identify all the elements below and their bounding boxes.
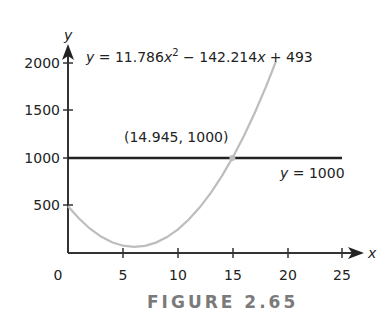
y-tick-label-1000: 1000 (24, 150, 60, 166)
y-tick-label-1500: 1500 (24, 102, 60, 118)
y-axis-label: y (63, 27, 73, 43)
x-tick-label-5: 5 (119, 267, 128, 283)
line-equation-label: y = 1000 (279, 165, 345, 181)
x-tick-label-15: 15 (224, 267, 242, 283)
y-tick-label-2000: 2000 (24, 55, 60, 71)
x-tick-label-10: 10 (169, 267, 187, 283)
axes: 0 5 10 15 20 25 500 1000 1500 2000 x y (24, 27, 377, 283)
intersection-point (229, 155, 235, 161)
x-tick-label-25: 25 (333, 267, 351, 283)
parabola-curve (68, 62, 276, 247)
x-axis-label: x (367, 245, 377, 261)
chart: 0 5 10 15 20 25 500 1000 1500 2000 x y y… (0, 0, 392, 332)
intersection-label: (14.945, 1000) (124, 129, 228, 145)
parabola-equation-label: y = 11.786x2 − 142.214x + 493 (85, 47, 313, 65)
x-tick-label-20: 20 (279, 267, 297, 283)
y-tick-label-500: 500 (33, 197, 60, 213)
x-tick-label-0: 0 (54, 267, 63, 283)
figure-caption: FIGURE 2.65 (147, 292, 298, 312)
